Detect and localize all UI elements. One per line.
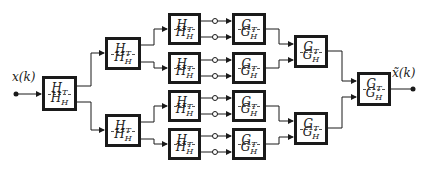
filter-bottom-label: GH [235, 26, 263, 40]
filter-bottom-label: HH [171, 141, 198, 155]
filter-bottom-label: HH [108, 51, 138, 65]
synthesis-filter-level2-top: GTGH [294, 35, 328, 68]
analysis-filter-level3-4: HTHH [168, 128, 201, 160]
filter-bottom-label: GH [297, 126, 325, 140]
filter-bottom-label: HH [171, 26, 198, 40]
analysis-filter-level2-top: HTHH [105, 37, 141, 70]
filter-bottom-label: GH [360, 87, 388, 101]
synthesis-filter-level3-3: GTGH [232, 90, 266, 122]
output-dot [411, 87, 416, 92]
input-label: x(k) [12, 70, 35, 84]
analysis-filter-level3-3: HTHH [168, 90, 201, 122]
filter-bottom-label: HH [108, 128, 138, 142]
filter-bottom-label: HH [171, 103, 198, 117]
input-dot [14, 92, 19, 97]
filter-bottom-label: GH [235, 65, 263, 79]
synthesis-filter-level2-bottom: GTGH [294, 112, 328, 145]
analysis-filter-level2-bottom: HTHH [105, 114, 141, 147]
filter-bottom-label: GH [297, 49, 325, 63]
analysis-filter-level3-2: HTHH [168, 52, 201, 84]
output-label: x̃(k) [392, 66, 415, 80]
filter-bottom-label: HH [171, 65, 198, 79]
filter-bottom-label: GH [235, 141, 263, 155]
filter-bank-diagram: x(k) x̃(k) HTHH HTHH HTHH HTHH HTHH HTHH… [0, 0, 431, 173]
synthesis-filter-level3-4: GTGH [232, 128, 266, 160]
synthesis-filter-level1: GTGH [357, 72, 391, 106]
filter-bottom-label: GH [235, 103, 263, 117]
filter-bottom-label: HH [45, 92, 74, 106]
analysis-filter-level1: HTHH [42, 76, 77, 111]
analysis-filter-level3-1: HTHH [168, 13, 201, 45]
synthesis-filter-level3-1: GTGH [232, 13, 266, 45]
downsample-circles [213, 19, 218, 155]
synthesis-filter-level3-2: GTGH [232, 52, 266, 84]
